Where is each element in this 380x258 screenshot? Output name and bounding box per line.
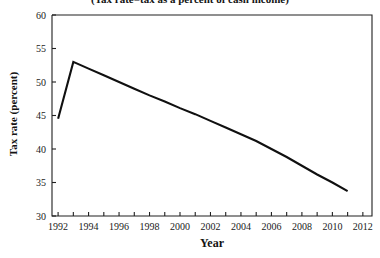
x-tick-label: 2000 bbox=[170, 221, 190, 232]
x-tick-label: 1996 bbox=[109, 221, 129, 232]
x-tick-label: 2002 bbox=[200, 221, 220, 232]
chart-figure: (Tax rate=tax as a percent of cash incom… bbox=[0, 0, 380, 258]
y-tick-label: 60 bbox=[36, 10, 46, 21]
x-tick-label: 1998 bbox=[140, 221, 160, 232]
x-tick-label: 1994 bbox=[79, 221, 99, 232]
y-tick-marks bbox=[52, 15, 56, 216]
x-tick-labels: 1992199419961998200020022004200620082010… bbox=[48, 221, 373, 232]
data-series-line bbox=[58, 62, 348, 191]
x-tick-label: 1992 bbox=[48, 221, 68, 232]
x-tick-marks bbox=[58, 212, 363, 216]
plot-area: 30354045505560 1992199419961998200020022… bbox=[0, 0, 380, 258]
x-tick-label: 2006 bbox=[261, 221, 281, 232]
x-tick-label: 2004 bbox=[231, 221, 251, 232]
axis-frame bbox=[52, 15, 372, 216]
y-tick-labels: 30354045505560 bbox=[36, 10, 46, 222]
y-tick-label: 50 bbox=[36, 77, 46, 88]
y-tick-label: 55 bbox=[36, 43, 46, 54]
x-tick-label: 2008 bbox=[292, 221, 312, 232]
y-tick-label: 35 bbox=[36, 177, 46, 188]
y-tick-label: 30 bbox=[36, 211, 46, 222]
y-tick-label: 45 bbox=[36, 110, 46, 121]
x-tick-label: 2012 bbox=[353, 221, 373, 232]
y-tick-label: 40 bbox=[36, 144, 46, 155]
x-tick-label: 2010 bbox=[322, 221, 342, 232]
